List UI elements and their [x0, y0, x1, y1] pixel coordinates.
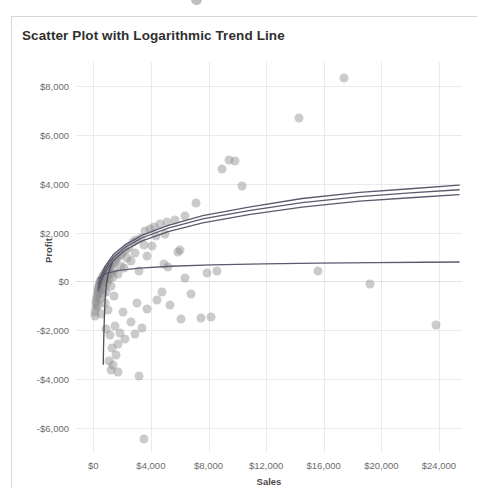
- y-tick-label: $2,000: [40, 227, 69, 238]
- x-tick-label: $24,000: [422, 460, 456, 471]
- x-tick-label: $20,000: [364, 460, 398, 471]
- log-trend-middle: [98, 190, 459, 288]
- y-tick-label: $8,000: [40, 81, 69, 92]
- log-trend-lower: [98, 195, 459, 292]
- x-tick-label: $16,000: [307, 460, 341, 471]
- y-tick-label: -$2,000: [37, 325, 69, 336]
- trend-lines: [76, 62, 462, 452]
- x-tick-label: $8,000: [194, 460, 223, 471]
- y-tick-label: -$6,000: [37, 422, 69, 433]
- x-axis-label: Sales: [76, 476, 462, 487]
- scatter-plot-area: $0$4,000$8,000$12,000$16,000$20,000$24,0…: [76, 62, 462, 452]
- log-trend-steep-drop: [103, 263, 112, 364]
- page-title: Scatter Plot with Logarithmic Trend Line: [22, 28, 285, 43]
- y-tick-label: $6,000: [40, 130, 69, 141]
- y-tick-label: $0: [58, 276, 69, 287]
- x-tick-label: $4,000: [136, 460, 165, 471]
- log-trend-flat: [98, 262, 459, 278]
- chart-card: Scatter Plot with Logarithmic Trend Line…: [11, 16, 477, 488]
- x-tick-label: $0: [88, 460, 99, 471]
- y-tick-label: $4,000: [40, 178, 69, 189]
- x-tick-label: $12,000: [249, 460, 283, 471]
- y-axis-label: Profit: [43, 238, 54, 263]
- clipped-marker-above-card: [191, 0, 202, 5]
- y-tick-label: -$4,000: [37, 373, 69, 384]
- screenshot-root: Scatter Plot with Logarithmic Trend Line…: [0, 0, 489, 502]
